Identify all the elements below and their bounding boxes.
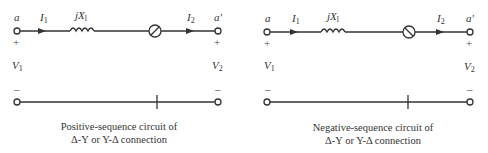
terminal-a-label: a (265, 13, 271, 24)
terminal-a-icon (264, 29, 270, 35)
reactance-label: jXl (75, 10, 87, 23)
voltage-subscript: 2 (219, 64, 223, 73)
voltage-subscript: 1 (19, 64, 23, 73)
current-subscript: 2 (191, 16, 195, 25)
reactance-label: jXl (327, 11, 339, 24)
inductor-icon (70, 28, 94, 31)
positive-sequence-circuit (20, 25, 215, 109)
reactance-subscript: l (337, 15, 339, 24)
minus-sign-left: – (265, 84, 271, 95)
terminal-a-icon (14, 28, 20, 34)
terminal-neg-left-icon (264, 99, 270, 105)
plus-sign-left: + (13, 37, 19, 48)
voltage-v1-label: V1 (264, 60, 275, 73)
terminal-neg-left-icon (14, 99, 20, 105)
voltage-v2-label: V2 (212, 60, 223, 73)
phase-shift-slash-icon (405, 28, 413, 36)
terminal-neg-right-icon (467, 99, 473, 105)
plus-sign-left: + (264, 38, 270, 49)
terminal-a-prime-icon (467, 29, 473, 35)
minus-sign-right: – (467, 84, 473, 95)
current-subscript: 2 (441, 17, 445, 26)
current-i2-label: I2 (437, 13, 445, 26)
inductor-icon (321, 29, 345, 32)
caption-line-1: Positive-sequence circuit of (60, 120, 178, 133)
voltage-symbol: V (464, 60, 471, 72)
current-arrow-icon (186, 28, 194, 34)
voltage-v1-label: V1 (12, 60, 23, 73)
terminal-a-prime-icon (215, 28, 221, 34)
plus-sign-right: + (214, 37, 220, 48)
current-arrow-icon (38, 28, 46, 34)
current-i2-label: I2 (187, 12, 195, 25)
plus-sign-right: + (466, 38, 472, 49)
caption-line-2: Δ-Y or Y-Δ connection (60, 133, 178, 146)
caption-line-2: Δ-Y or Y-Δ connection (311, 134, 435, 147)
current-i1-label: I1 (40, 12, 48, 25)
terminal-neg-right-icon (215, 99, 221, 105)
reactance-subscript: l (85, 14, 87, 23)
current-arrow-icon (290, 29, 298, 35)
reactance-symbol: jX (75, 9, 85, 21)
voltage-v2-label: V2 (464, 61, 475, 74)
voltage-subscript: 2 (471, 65, 475, 74)
voltage-symbol: V (264, 59, 271, 71)
minus-sign-left: – (14, 84, 20, 95)
caption-negative-sequence: Negative-sequence circuit of Δ-Y or Y-Δ … (311, 121, 435, 147)
terminal-a-prime-label: a' (466, 13, 474, 24)
phase-shift-slash-icon (151, 27, 159, 35)
current-i1-label: I1 (292, 13, 300, 26)
voltage-symbol: V (212, 59, 219, 71)
current-arrow-icon (436, 29, 444, 35)
reactance-symbol: jX (327, 10, 337, 22)
caption-line-1: Negative-sequence circuit of (311, 121, 435, 134)
current-subscript: 1 (44, 16, 48, 25)
voltage-subscript: 1 (271, 64, 275, 73)
terminal-a-prime-label: a' (214, 12, 222, 23)
terminal-a-label: a (14, 12, 20, 23)
voltage-symbol: V (12, 59, 19, 71)
minus-sign-right: – (215, 84, 221, 95)
negative-sequence-circuit (270, 26, 467, 109)
caption-positive-sequence: Positive-sequence circuit of Δ-Y or Y-Δ … (60, 120, 178, 146)
current-subscript: 1 (296, 17, 300, 26)
